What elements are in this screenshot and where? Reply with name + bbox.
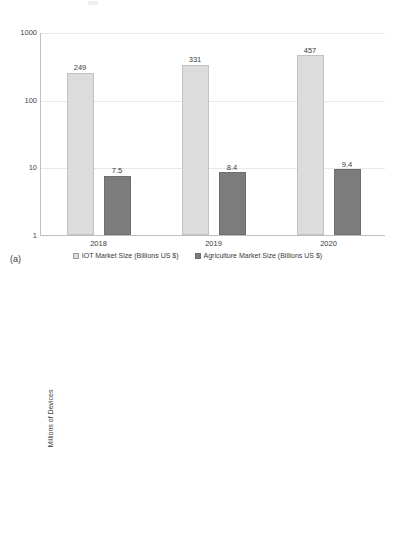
y-axis-tick-label: 1000	[20, 29, 37, 37]
bar-iot-2019: 331	[182, 65, 209, 236]
bar-value-label: 7.5	[112, 167, 122, 175]
legend-label: Agriculture Market Size (Billions US $)	[204, 252, 323, 259]
bar-agriculture-2020: 9.4	[334, 169, 361, 235]
bar-value-label: 8.4	[227, 164, 237, 172]
legend-swatch-icon	[73, 253, 79, 259]
legend-label: IOT Market Size (Billions US $)	[82, 252, 179, 259]
x-axis-tick-label-2018: 2018	[90, 240, 107, 249]
bar-iot-2018: 249	[67, 73, 94, 235]
x-axis-tick-label-2019: 2019	[205, 240, 222, 249]
y-axis-tick-label: 100	[24, 97, 37, 105]
bar-agriculture-2018: 7.5	[104, 176, 131, 235]
bar-value-label: 249	[74, 64, 87, 72]
legend-swatch-icon	[195, 253, 201, 259]
legend-item-iot[interactable]: IOT Market Size (Billions US $)	[73, 252, 179, 259]
chart-iot-agriculture-market-size: 11010010002497.520183318.420194579.42020…	[0, 0, 395, 270]
plot-area-a: 11010010002497.520183318.420194579.42020	[40, 33, 385, 236]
bar-iot-2020: 457	[297, 55, 324, 235]
x-axis-tick-label-2020: 2020	[320, 240, 337, 249]
bar-value-label: 331	[189, 56, 202, 64]
y-axis-tick-label: 10	[29, 165, 37, 173]
chart-legend-a: IOT Market Size (Billions US $)Agricultu…	[0, 252, 395, 259]
panel-caption-a: (a)	[10, 255, 21, 264]
y-axis-tick-label: 1	[33, 232, 37, 240]
chart-iot-devices-by-sector: 1101001000AgricultureFood ServicesHealth…	[0, 270, 395, 537]
gridline	[41, 33, 385, 34]
bar-value-label: 457	[304, 47, 317, 55]
y-axis-title-b: Millions of Devices	[47, 368, 54, 468]
bar-value-label: 9.4	[342, 161, 352, 169]
legend-item-agriculture[interactable]: Agriculture Market Size (Billions US $)	[195, 252, 323, 259]
bar-agriculture-2019: 8.4	[219, 172, 246, 235]
